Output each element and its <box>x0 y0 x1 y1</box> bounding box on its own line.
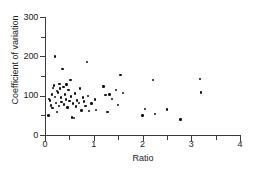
x-tick-minor <box>118 136 119 140</box>
y-axis-title: Coefficient of variation <box>10 1 20 119</box>
data-point <box>55 102 57 104</box>
data-point <box>88 110 90 112</box>
data-point <box>64 93 66 95</box>
data-point <box>74 92 76 94</box>
data-point <box>62 86 64 88</box>
data-point <box>79 87 81 89</box>
data-point <box>83 100 85 102</box>
data-point <box>66 106 68 108</box>
data-point <box>65 83 67 85</box>
x-tick-label: 1 <box>87 140 101 149</box>
data-point <box>94 98 96 100</box>
data-point <box>51 107 53 109</box>
data-point <box>47 114 49 116</box>
data-point <box>63 103 65 105</box>
data-point <box>152 79 154 81</box>
data-point <box>67 89 69 91</box>
data-point <box>49 99 51 101</box>
data-point <box>154 113 156 115</box>
y-tick-label: 200 <box>24 52 38 61</box>
data-point <box>108 93 110 95</box>
data-point <box>58 83 60 85</box>
data-point <box>90 102 92 104</box>
data-point <box>84 105 86 107</box>
data-point <box>75 105 77 107</box>
x-tick-label: 2 <box>136 140 150 149</box>
data-point <box>73 117 75 119</box>
data-point <box>106 111 108 113</box>
scatter-plot-figure: 0100200300 01234 Coefficient of variatio… <box>0 0 257 170</box>
data-point <box>87 95 89 97</box>
data-point <box>95 109 97 111</box>
data-point <box>54 55 56 57</box>
data-point <box>69 79 71 81</box>
data-point <box>65 98 67 100</box>
data-point <box>58 105 60 107</box>
data-point <box>56 111 58 113</box>
data-point <box>80 109 82 111</box>
data-point <box>78 102 80 104</box>
data-point <box>144 108 146 110</box>
data-point <box>60 96 62 98</box>
x-tick-minor <box>216 136 217 140</box>
x-axis-title: Ratio <box>45 153 241 163</box>
x-tick-minor <box>69 136 70 140</box>
data-point <box>51 93 53 95</box>
data-point <box>141 114 143 116</box>
data-point <box>119 74 121 76</box>
data-point <box>72 102 74 104</box>
data-point <box>86 61 88 63</box>
data-point <box>70 95 72 97</box>
data-point <box>200 91 202 93</box>
data-point <box>52 87 54 89</box>
data-point <box>59 87 61 89</box>
data-point <box>104 94 106 96</box>
data-point <box>57 91 59 93</box>
data-point <box>68 100 70 102</box>
data-point <box>61 68 63 70</box>
x-tick-label: 0 <box>38 140 52 149</box>
data-point <box>53 84 55 86</box>
data-point <box>179 118 181 120</box>
y-tick-label: 0 <box>33 131 38 140</box>
x-tick-label: 3 <box>184 140 198 149</box>
data-point <box>199 78 201 80</box>
data-point <box>102 85 104 87</box>
data-point <box>82 96 84 98</box>
plot-area <box>45 17 240 135</box>
x-tick-label: 4 <box>233 140 247 149</box>
x-tick-minor <box>167 136 168 140</box>
data-point <box>117 104 119 106</box>
data-point <box>54 96 56 98</box>
data-point <box>115 89 117 91</box>
data-point <box>166 108 168 110</box>
data-point <box>122 92 124 94</box>
y-tick-label: 100 <box>24 91 38 100</box>
data-point <box>111 98 113 100</box>
y-tick-label: 300 <box>24 13 38 22</box>
